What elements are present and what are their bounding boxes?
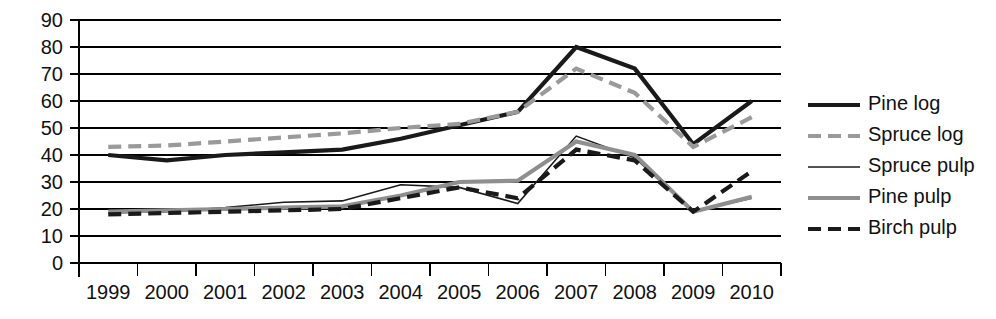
x-axis-tick-label: 2004	[379, 281, 424, 303]
series-lines	[108, 47, 752, 214]
series-line	[108, 69, 752, 147]
chart-legend: Pine logSpruce logSpruce pulpPine pulpBi…	[808, 92, 975, 238]
x-axis-tick-label: 2009	[671, 281, 716, 303]
legend-item-label: Pine pulp	[868, 185, 951, 207]
series-line	[108, 142, 752, 212]
x-axis-tick-label: 2003	[320, 281, 365, 303]
x-axis-tick-label: 2006	[496, 281, 541, 303]
chart-canvas: 0102030405060708090 19992000200120022003…	[0, 0, 996, 319]
line-chart: 0102030405060708090 19992000200120022003…	[0, 0, 996, 319]
x-axis-tick-label: 2008	[613, 281, 658, 303]
x-axis-tick-label: 2005	[437, 281, 482, 303]
y-axis-tick-label: 60	[41, 90, 63, 112]
gridlines	[79, 20, 781, 263]
y-axis-tick-label: 10	[41, 225, 63, 247]
x-axis: 1999200020012002200320042005200620072008…	[79, 263, 781, 303]
x-axis-tick-label: 1999	[86, 281, 131, 303]
legend-item-label: Spruce log	[868, 123, 964, 145]
y-axis-tick-label: 40	[41, 144, 63, 166]
legend-item-label: Pine log	[868, 92, 940, 114]
x-axis-tick-label: 2007	[554, 281, 599, 303]
legend-item-label: Birch pulp	[868, 216, 957, 238]
y-axis-tick-label: 70	[41, 63, 63, 85]
x-axis-tick-label: 2000	[145, 281, 190, 303]
x-axis-tick-label: 2002	[262, 281, 307, 303]
y-axis-tick-label: 90	[41, 9, 63, 31]
y-axis-tick-label: 20	[41, 198, 63, 220]
y-axis-tick-label: 0	[52, 252, 63, 274]
x-axis-tick-label: 2001	[203, 281, 248, 303]
y-axis: 0102030405060708090	[41, 9, 79, 277]
series-line	[108, 47, 752, 160]
x-axis-tick-label: 2010	[730, 281, 775, 303]
legend-item-label: Spruce pulp	[868, 154, 975, 176]
y-axis-tick-label: 50	[41, 117, 63, 139]
y-axis-tick-label: 80	[41, 36, 63, 58]
y-axis-tick-label: 30	[41, 171, 63, 193]
